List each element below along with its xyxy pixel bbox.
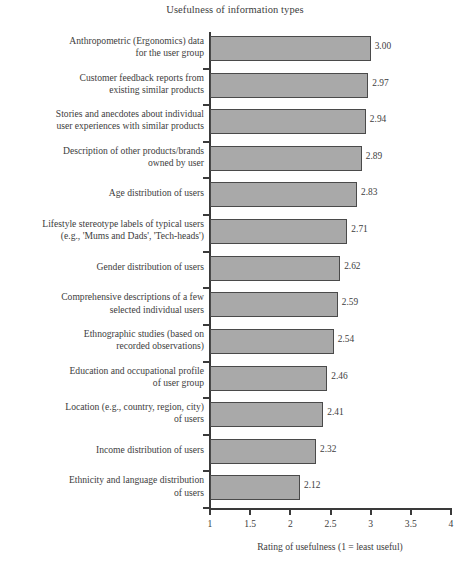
bar-value-label: 2.83 bbox=[361, 187, 377, 197]
bar-value-label: 2.89 bbox=[366, 151, 382, 161]
x-axis-tick-label: 2 bbox=[270, 518, 310, 529]
x-axis-tick bbox=[249, 508, 251, 515]
bar[interactable] bbox=[210, 256, 340, 281]
bar[interactable] bbox=[210, 109, 366, 134]
category-label: Ethnicity and language distribution of u… bbox=[9, 474, 204, 498]
bar-row: Age distribution of users2.83 bbox=[0, 178, 470, 215]
bar-value-label: 2.62 bbox=[344, 261, 360, 271]
x-axis-tick-label: 1 bbox=[190, 518, 230, 529]
x-axis-tick-label: 2.5 bbox=[311, 518, 351, 529]
category-label: Income distribution of users bbox=[9, 444, 204, 456]
bar-row: Ethnicity and language distribution of u… bbox=[0, 471, 470, 508]
bar[interactable] bbox=[210, 366, 327, 391]
x-axis-tick bbox=[450, 508, 452, 515]
bar[interactable] bbox=[210, 182, 357, 207]
bar-row: Anthropometric (Ergonomics) data for the… bbox=[0, 32, 470, 69]
bar-value-label: 2.54 bbox=[338, 334, 354, 344]
category-label: Age distribution of users bbox=[9, 187, 204, 199]
bar-row: Gender distribution of users2.62 bbox=[0, 252, 470, 289]
x-axis-tick bbox=[370, 508, 372, 515]
bar-row: Income distribution of users2.32 bbox=[0, 435, 470, 472]
bar-value-label: 2.32 bbox=[320, 444, 336, 454]
bar-row: Description of other products/brands own… bbox=[0, 142, 470, 179]
x-axis-tick-label: 3 bbox=[351, 518, 391, 529]
x-axis-title: Rating of usefulness (1 = least useful) bbox=[209, 541, 451, 552]
bar[interactable] bbox=[210, 475, 300, 500]
x-axis-tick-label: 4 bbox=[431, 518, 470, 529]
bar[interactable] bbox=[210, 402, 323, 427]
category-label: Description of other products/brands own… bbox=[9, 145, 204, 169]
bar[interactable] bbox=[210, 146, 362, 171]
bar-value-label: 2.41 bbox=[327, 407, 343, 417]
bar-row: Education and occupational profile of us… bbox=[0, 362, 470, 399]
category-label: Customer feedback reports from existing … bbox=[9, 72, 204, 96]
x-axis-tick-label: 1.5 bbox=[230, 518, 270, 529]
category-label: Location (e.g., country, region, city) o… bbox=[9, 401, 204, 425]
bar[interactable] bbox=[210, 36, 371, 61]
bar[interactable] bbox=[210, 292, 338, 317]
x-axis-tick-label: 3.5 bbox=[391, 518, 431, 529]
bar-row: Location (e.g., country, region, city) o… bbox=[0, 398, 470, 435]
bar[interactable] bbox=[210, 439, 316, 464]
bar-value-label: 2.46 bbox=[331, 371, 347, 381]
bar-value-label: 3.00 bbox=[375, 41, 391, 51]
bar-value-label: 2.12 bbox=[304, 480, 320, 490]
category-label: Anthropometric (Ergonomics) data for the… bbox=[9, 35, 204, 59]
x-axis-tick bbox=[289, 508, 291, 515]
bar-row: Stories and anecdotes about individual u… bbox=[0, 105, 470, 142]
bar-value-label: 2.59 bbox=[342, 297, 358, 307]
x-axis-tick bbox=[330, 508, 332, 515]
bar-row: Customer feedback reports from existing … bbox=[0, 69, 470, 106]
bar[interactable] bbox=[210, 329, 334, 354]
category-label: Ethnographic studies (based on recorded … bbox=[9, 328, 204, 352]
category-label: Stories and anecdotes about individual u… bbox=[9, 108, 204, 132]
bar-row: Lifestyle stereotype labels of typical u… bbox=[0, 215, 470, 252]
category-label: Comprehensive descriptions of a few sele… bbox=[9, 291, 204, 315]
bar-value-label: 2.94 bbox=[370, 114, 386, 124]
category-label: Gender distribution of users bbox=[9, 261, 204, 273]
bar[interactable] bbox=[210, 73, 368, 98]
chart-title: Usefulness of information types bbox=[0, 4, 470, 15]
bar-value-label: 2.71 bbox=[351, 224, 367, 234]
bar-row: Ethnographic studies (based on recorded … bbox=[0, 325, 470, 362]
x-axis-tick bbox=[410, 508, 412, 515]
x-axis-tick bbox=[209, 508, 211, 515]
category-label: Education and occupational profile of us… bbox=[9, 365, 204, 389]
bar-chart: Usefulness of information types Anthropo… bbox=[0, 0, 470, 568]
category-label: Lifestyle stereotype labels of typical u… bbox=[9, 218, 204, 242]
bar[interactable] bbox=[210, 219, 347, 244]
bar-value-label: 2.97 bbox=[372, 78, 388, 88]
bar-row: Comprehensive descriptions of a few sele… bbox=[0, 288, 470, 325]
